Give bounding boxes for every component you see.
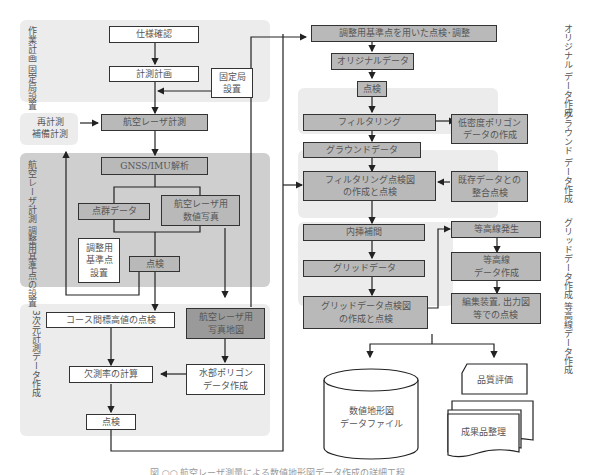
node-course-check: コース間標高値の点検 — [46, 312, 175, 328]
node-adj-check: 調整用基準点を用いた点検･調整 — [311, 25, 497, 42]
node-dem-file: 数値地形図 データファイル — [324, 405, 418, 430]
node-fixed-station: 固定局 設置 — [211, 68, 253, 98]
node-adj-ref-point: 調整用 基準点 設置 — [78, 238, 120, 283]
section-label-laser-survey: 航空レーザ計測 調整用基準点の設置 — [27, 160, 37, 307]
node-quality-eval: 品質評価 — [462, 374, 527, 387]
section-label-ground-data: グラウンド データ作成 — [563, 110, 573, 203]
node-inspect-1: 点検 — [129, 256, 180, 272]
node-contour-data: 等高線 データ作成 — [451, 252, 541, 281]
node-grid-data: グリッドデータ — [303, 260, 425, 277]
node-contour-gen: 等高線発生 — [451, 221, 541, 238]
section-label-3d-data: 3次元計測データ作成 — [27, 310, 41, 397]
section-label-work-plan: 作業計画 固定局設置 — [27, 26, 37, 110]
node-inspect-3: 点検 — [357, 81, 387, 97]
node-missing-rate: 欠測率の計算 — [69, 366, 153, 383]
node-survey-plan: 計測計画 — [109, 66, 199, 82]
node-original-data: オリジナルデータ — [331, 53, 414, 70]
node-laser-measure: 航空レーザ計測 — [101, 114, 208, 131]
figure-caption: 図 ○○ 航空レーザ測量による数値地形図データ作成の詳細工程 — [150, 466, 405, 475]
node-ground-data: グラウンドデータ — [303, 142, 421, 158]
node-deliverables: 成果品整理 — [448, 426, 519, 439]
section-label-grid-contour: グリッドデータ作成 等高線データ作成 — [563, 218, 573, 374]
node-editor-check: 編集装置, 出力図 等での点検 — [451, 293, 541, 324]
node-water-polygon: 水部ポリゴン データ作成 — [186, 364, 265, 395]
section-label-original-data: オリジナル データ作成 — [563, 24, 573, 117]
node-inspect-2: 点検 — [86, 414, 136, 430]
node-laser-photomap: 航空レーザ用 写真地図 — [186, 308, 265, 339]
node-interpolation: 内挿補間 — [303, 224, 425, 241]
section-label-re-survey: 再計測 補備計測 — [26, 117, 74, 140]
node-grid-check: グリッドデータ点検図 の作成と点検 — [303, 296, 428, 329]
node-spec-confirm: 仕様確認 — [109, 26, 199, 43]
node-filter-check: フィルタリング点検図 の作成と点検 — [303, 171, 436, 201]
node-existing-data: 既存データとの 整合点検 — [451, 171, 528, 202]
node-laser-photo: 航空レーザ用 数値写真 — [161, 195, 240, 226]
node-point-cloud: 点群データ — [78, 203, 150, 220]
node-gnss-imu: GNSS/IMU解析 — [101, 157, 208, 175]
node-filtering: フィルタリング — [303, 114, 436, 131]
node-low-density: 低密度ポリゴン データの作成 — [451, 114, 528, 144]
